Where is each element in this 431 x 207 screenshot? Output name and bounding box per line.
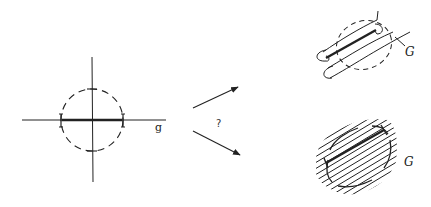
lower-arrow: [193, 131, 240, 155]
bottom-right-panel: [300, 82, 400, 205]
tube-upper-line: [323, 11, 378, 52]
label-G-bottom: G: [404, 155, 414, 169]
label-G-top: G: [405, 45, 415, 59]
question-mark: ?: [216, 118, 221, 129]
thick-segment: [326, 130, 384, 163]
bottom-loop: [324, 66, 333, 78]
upper-arrow: [193, 87, 238, 108]
dashed-ellipse-neighborhood: [329, 13, 398, 77]
left-panel: [22, 57, 166, 182]
right-tube-end: [374, 24, 382, 34]
axis-label-g: g: [155, 121, 162, 134]
G-leader: [395, 37, 405, 46]
top-right-panel: [317, 11, 410, 78]
diagram-canvas: g ? G: [0, 0, 431, 207]
